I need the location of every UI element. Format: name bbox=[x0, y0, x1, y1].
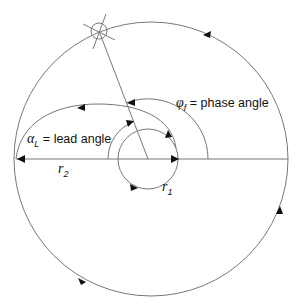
r2-label: r2 bbox=[58, 162, 68, 176]
r2-subscript: 2 bbox=[63, 169, 68, 179]
lead-angle-arc bbox=[108, 122, 134, 160]
lead-subscript: L bbox=[34, 139, 39, 149]
lead-text: = lead angle bbox=[43, 132, 111, 146]
arrow-lead-icon bbox=[126, 120, 134, 127]
diagram-svg bbox=[0, 0, 296, 305]
arrow-r2-left-icon bbox=[17, 155, 25, 163]
phase-angle-label: φf = phase angle bbox=[176, 96, 269, 110]
arrow-outer-right-icon bbox=[276, 206, 283, 214]
arrow-outer-top-icon bbox=[203, 31, 211, 38]
r1-subscript: 1 bbox=[167, 187, 172, 197]
arrow-spiral-start-icon bbox=[165, 130, 172, 138]
lead-angle-label: αL = lead angle bbox=[27, 132, 111, 146]
phase-text: = phase angle bbox=[190, 96, 269, 110]
phase-symbol: φ bbox=[176, 95, 184, 110]
r1-label: r1 bbox=[162, 180, 172, 194]
arrow-phase-icon bbox=[127, 99, 135, 106]
target-crosshair-icon bbox=[83, 14, 115, 49]
orbit-diagram: φf = phase angle αL = lead angle r2 r1 bbox=[0, 0, 296, 305]
phase-subscript: f bbox=[184, 103, 187, 113]
